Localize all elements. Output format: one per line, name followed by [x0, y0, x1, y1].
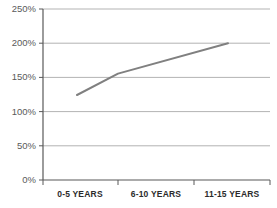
- x-tick-label-0-5-years: 0-5 YEARS: [57, 189, 103, 199]
- y-tick-label-100: 100%: [12, 106, 37, 117]
- y-tick-label-150: 150%: [12, 71, 37, 82]
- y-tick-label-50: 50%: [17, 140, 37, 151]
- y-tick-label-200: 200%: [12, 37, 37, 48]
- y-tick-label-0: 0%: [22, 174, 36, 185]
- x-axis-tick-labels: 0-5 YEARS 6-10 YEARS 11-15 YEARS: [57, 189, 259, 199]
- y-tick-label-250: 250%: [12, 3, 37, 14]
- line-chart: 250% 200% 150% 100% 50% 0% 0-5 YEARS 6-1…: [0, 0, 277, 208]
- x-tick-label-6-10-years: 6-10 YEARS: [131, 189, 182, 199]
- chart-canvas: 250% 200% 150% 100% 50% 0% 0-5 YEARS 6-1…: [0, 0, 277, 208]
- x-tick-label-11-15-years: 11-15 YEARS: [205, 189, 260, 199]
- chart-background: [0, 0, 277, 208]
